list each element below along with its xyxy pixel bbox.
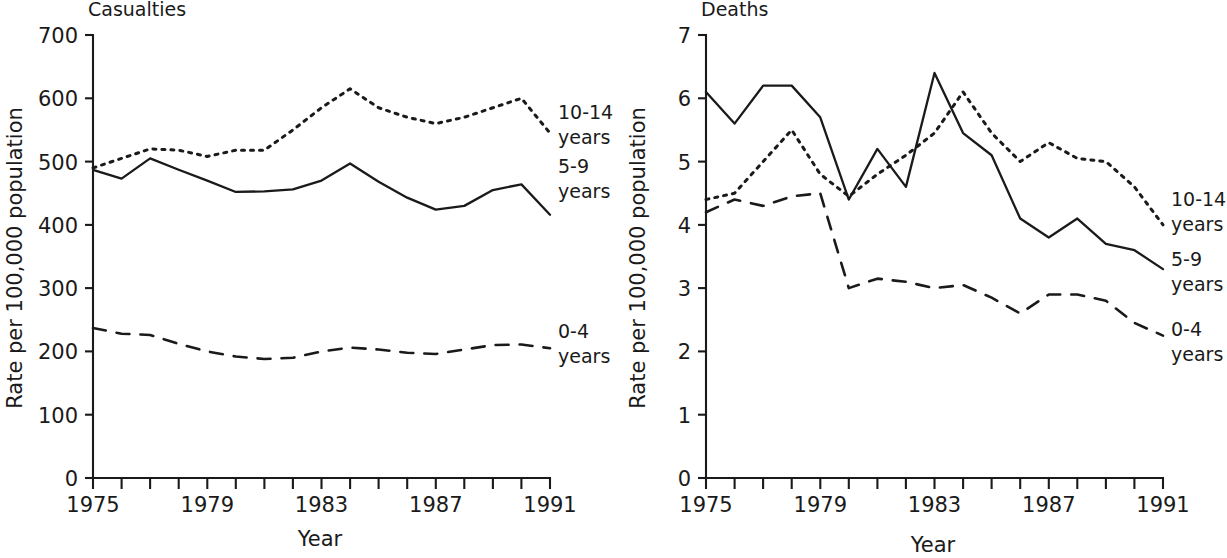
deaths-legend: 10-14 years 5-9 years 0-4 years [1171,188,1226,365]
deaths-legend-10-14-line2: years [1171,213,1223,235]
deaths-chart-title: Deaths [701,0,768,20]
casualties-series-group [93,89,550,359]
deaths-svg: Deaths Rate per 100,000 population Year … [613,0,1226,558]
deaths-ytick-5: 5 [678,151,691,175]
deaths-ytick-7: 7 [678,24,691,48]
casualties-legend-5-9-line2: years [558,180,610,202]
deaths-legend-5-9-line2: years [1171,273,1223,295]
casualties-ytick-100: 100 [38,404,78,428]
casualties-legend-10-14-line2: years [558,126,610,148]
casualties-xtick-1975: 1975 [66,493,119,517]
casualties-ytick-600: 600 [38,87,78,111]
figure-container: Casualties Rate per 100,000 population Y… [0,0,1227,558]
casualties-xtick-1987: 1987 [409,493,462,517]
casualties-legend-10-14-line1: 10-14 [558,101,613,123]
casualties-legend-0-4-line2: years [558,345,610,367]
deaths-y-ticks [698,35,706,478]
casualties-x-tick-labels: 1975 1979 1983 1987 1991 [66,493,576,517]
casualties-y-axis-label: Rate per 100,000 population [3,107,27,409]
casualties-series-10-14 [93,89,550,168]
casualties-series-0-4 [93,328,550,359]
deaths-xtick-1991: 1991 [1136,493,1189,517]
casualties-ytick-400: 400 [38,214,78,238]
casualties-ytick-0: 0 [65,467,78,491]
deaths-series-10-14 [706,92,1163,225]
casualties-xtick-1979: 1979 [181,493,234,517]
casualties-legend-5-9-line1: 5-9 [558,155,589,177]
deaths-xtick-1979: 1979 [794,493,847,517]
casualties-y-ticks [85,35,93,478]
deaths-series-5-9 [706,73,1163,269]
casualties-series-5-9 [93,158,550,214]
deaths-legend-10-14-line1: 10-14 [1171,188,1226,210]
casualties-axes [93,35,550,478]
deaths-axes [706,35,1163,478]
deaths-x-axis-label: Year [910,533,956,557]
deaths-ytick-0: 0 [678,467,691,491]
deaths-y-axis-label: Rate per 100,000 population [626,107,650,409]
casualties-legend-0-4-line1: 0-4 [558,320,589,342]
casualties-ytick-300: 300 [38,277,78,301]
deaths-ytick-6: 6 [678,87,691,111]
deaths-ytick-1: 1 [678,404,691,428]
casualties-y-tick-labels: 0 100 200 300 400 500 600 700 [38,24,78,491]
deaths-legend-5-9-line1: 5-9 [1171,248,1202,270]
deaths-series-group [706,73,1163,336]
casualties-x-axis-label: Year [297,527,343,551]
casualties-svg: Casualties Rate per 100,000 population Y… [0,0,613,558]
casualties-ytick-700: 700 [38,24,78,48]
deaths-x-ticks [706,478,1163,489]
deaths-x-tick-labels: 1975 1979 1983 1987 1991 [679,493,1189,517]
deaths-y-tick-labels: 0 1 2 3 4 5 6 7 [678,24,691,491]
deaths-legend-0-4-line2: years [1171,343,1223,365]
casualties-x-ticks [93,478,550,489]
deaths-ytick-4: 4 [678,214,691,238]
casualties-xtick-1991: 1991 [523,493,576,517]
casualties-xtick-1983: 1983 [295,493,348,517]
deaths-xtick-1987: 1987 [1022,493,1075,517]
chart-panel-casualties: Casualties Rate per 100,000 population Y… [0,0,613,558]
casualties-legend: 10-14 years 5-9 years 0-4 years [558,101,613,367]
casualties-ytick-500: 500 [38,151,78,175]
casualties-chart-title: Casualties [88,0,186,20]
deaths-series-0-4 [706,193,1163,335]
chart-panel-deaths: Deaths Rate per 100,000 population Year … [613,0,1226,558]
deaths-ytick-2: 2 [678,340,691,364]
deaths-ytick-3: 3 [678,277,691,301]
deaths-legend-0-4-line1: 0-4 [1171,318,1202,340]
deaths-xtick-1975: 1975 [679,493,732,517]
deaths-xtick-1983: 1983 [908,493,961,517]
casualties-ytick-200: 200 [38,340,78,364]
